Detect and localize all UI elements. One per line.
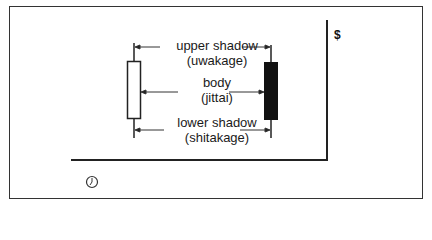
y-axis-label: $ xyxy=(334,28,341,42)
lower-shadow-label: lower shadow (shitakage) xyxy=(152,115,282,145)
body-label: body (jittai) xyxy=(152,75,282,105)
white-candle xyxy=(128,43,141,138)
upper-shadow-label: upper shadow (uwakage) xyxy=(152,38,282,68)
clock-icon xyxy=(85,175,99,193)
